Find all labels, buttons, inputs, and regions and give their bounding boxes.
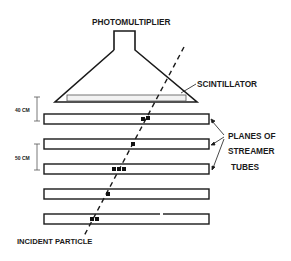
plane-1 <box>44 114 209 124</box>
scintillator-slab <box>67 95 186 101</box>
diagram-canvas: PHOTOMULTIPLIER SCINTILLATOR PLANES OF S… <box>0 0 291 261</box>
photomultiplier <box>55 31 197 102</box>
hit-square <box>117 167 121 171</box>
scintillator-label: SCINTILLATOR <box>197 79 257 89</box>
incident-particle-label: INCIDENT PARTICLE <box>17 237 92 246</box>
hit-square <box>146 116 150 120</box>
plane-3 <box>44 164 209 174</box>
hit-square <box>106 192 110 196</box>
planes-label-line-3: TUBES <box>231 162 260 172</box>
streamer-tube-planes <box>44 114 209 224</box>
detector-diagram: PHOTOMULTIPLIER SCINTILLATOR PLANES OF S… <box>0 0 291 261</box>
hit-square <box>95 217 99 221</box>
hit-square <box>112 167 116 171</box>
scintillator-leader-line <box>181 84 196 93</box>
spacing-bracket-50cm <box>34 144 40 170</box>
hit-square <box>141 117 145 121</box>
planes-label-line-1: PLANES OF <box>228 131 275 141</box>
photomultiplier-outline <box>55 31 197 102</box>
spacing-bracket-40cm <box>34 97 40 121</box>
planes-callout-arrows <box>211 119 224 170</box>
plane-4 <box>44 189 209 199</box>
hit-square <box>90 217 94 221</box>
plane-2 <box>44 139 209 149</box>
planes-label-line-2: STREAMER <box>228 146 275 156</box>
hit-square <box>122 167 126 171</box>
spacing-50cm-label: 50 CM <box>15 155 30 161</box>
photomultiplier-label: PHOTOMULTIPLIER <box>92 17 171 27</box>
hit-square <box>131 142 135 146</box>
spacing-40cm-label: 40 CM <box>15 107 30 113</box>
plane-5 <box>44 214 209 224</box>
